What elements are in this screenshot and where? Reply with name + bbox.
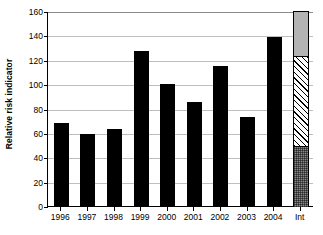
y-tick-label-20: 20 [5, 178, 47, 188]
bar-1997 [80, 134, 95, 206]
bar-1998 [107, 129, 122, 206]
x-tick-mark-2004 [273, 207, 274, 211]
y-tick-label-140: 140 [5, 31, 47, 41]
y-tick-label-80: 80 [5, 105, 47, 115]
x-tick-label-Int: Int [295, 212, 304, 222]
x-tick-label-2001: 2001 [184, 212, 203, 222]
stacked-segment-upper [294, 12, 308, 57]
y-tick-label-0: 0 [5, 202, 47, 212]
bar-1996 [54, 123, 69, 206]
stacked-segment-lower [294, 147, 308, 207]
x-tick-mark-2002 [220, 207, 221, 211]
x-tick-mark-1998 [114, 207, 115, 211]
x-tick-mark-2001 [193, 207, 194, 211]
y-tick-label-60: 60 [5, 129, 47, 139]
y-tick-label-40: 40 [5, 153, 47, 163]
bar-2000 [160, 84, 175, 206]
x-tick-label-2003: 2003 [237, 212, 256, 222]
bar-1999 [134, 51, 149, 206]
bar-2002 [213, 66, 228, 206]
plot-area [47, 12, 313, 207]
y-tick-label-100: 100 [5, 80, 47, 90]
plot-inner [48, 12, 313, 206]
bar-2003 [240, 117, 255, 206]
bar-2001 [187, 102, 202, 206]
x-tick-mark-2003 [247, 207, 248, 211]
y-tick-label-120: 120 [5, 56, 47, 66]
bar-2004 [267, 37, 282, 206]
y-tick-label-160: 160 [5, 7, 47, 17]
x-tick-mark-1999 [140, 207, 141, 211]
x-tick-label-2004: 2004 [264, 212, 283, 222]
gridline-160 [48, 12, 313, 13]
x-tick-mark-Int [300, 207, 301, 211]
x-tick-label-1999: 1999 [131, 212, 150, 222]
stacked-bar-Int [293, 11, 309, 206]
chart-container: Relative risk indicator 0204060801001201… [0, 0, 323, 235]
x-tick-mark-1997 [87, 207, 88, 211]
x-tick-label-1996: 1996 [51, 212, 70, 222]
x-tick-label-1997: 1997 [77, 212, 96, 222]
stacked-segment-middle [294, 57, 308, 147]
x-tick-mark-2000 [167, 207, 168, 211]
x-tick-label-2000: 2000 [157, 212, 176, 222]
x-tick-label-2002: 2002 [210, 212, 229, 222]
x-tick-mark-1996 [60, 207, 61, 211]
x-tick-label-1998: 1998 [104, 212, 123, 222]
